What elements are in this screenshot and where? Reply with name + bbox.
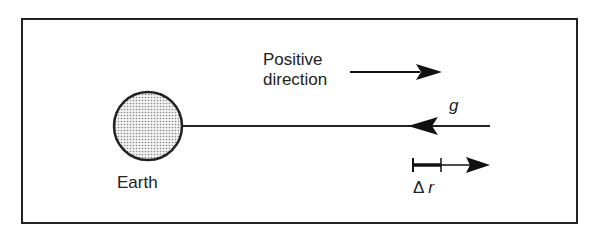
delta-r-label: Δ r [413,178,434,197]
earth-label: Earth [117,173,158,192]
positive-direction-label-line2: direction [263,70,327,89]
delta-r-arrow-icon [413,157,490,173]
gravity-label: g [449,96,458,115]
r-variable: r [428,178,434,197]
positive-direction-label-line1: Positive [263,50,323,69]
diagram-canvas [0,0,598,238]
earth-circle [114,92,182,160]
delta-symbol: Δ [413,178,423,197]
positive-direction-arrow-icon [350,64,442,80]
